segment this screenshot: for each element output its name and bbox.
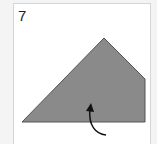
folded-paper-shape bbox=[22, 38, 145, 122]
origami-diagram bbox=[0, 0, 157, 144]
